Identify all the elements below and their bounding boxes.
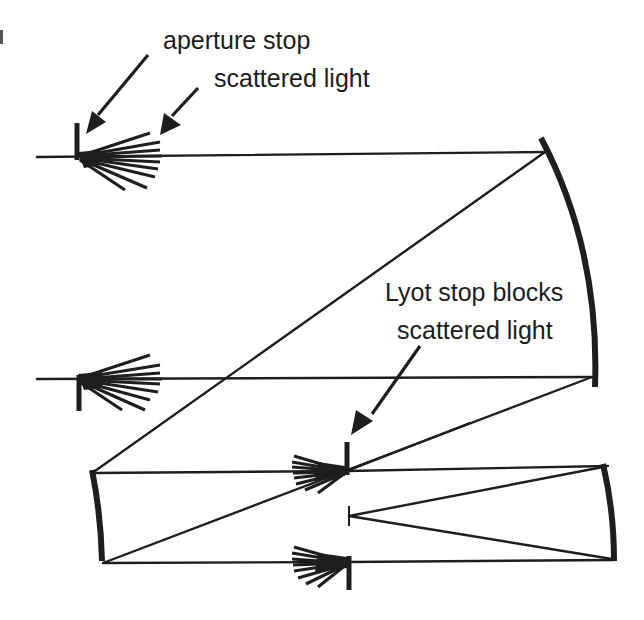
- upper-beam: [37, 123, 545, 190]
- lyot-stop-label-line2: scattered light: [397, 318, 553, 343]
- lyot-stop-lower-group: [292, 547, 614, 590]
- tertiary-mirror: [603, 464, 614, 561]
- scattered-light-label: scattered light: [214, 66, 370, 91]
- lower-beam: [37, 355, 592, 411]
- lyot-to-tertiary-upper: [347, 466, 608, 471]
- scatter-fan-upper: [78, 133, 162, 190]
- aperture-stop-arrow: [86, 55, 148, 134]
- diagram-canvas: [0, 0, 644, 620]
- lyot-stop-arrow: [351, 346, 420, 435]
- focal-ray-upper: [349, 467, 603, 516]
- diagonal-ray-upper: [95, 152, 545, 471]
- edge-mark: [0, 30, 3, 44]
- lyot-stop-label-line1: Lyot stop blocks: [385, 280, 563, 305]
- primary-mirror: [541, 138, 595, 387]
- secondary-mirror: [92, 470, 102, 561]
- lyot-to-tertiary-lower: [349, 560, 614, 562]
- scattered-light-arrow: [160, 88, 198, 135]
- scatter-fan-lower: [78, 355, 162, 410]
- lyot-oblique-ray: [347, 423, 470, 471]
- lyot-coronagraph-diagram: aperture stop scattered light Lyot stop …: [0, 0, 644, 620]
- aperture-stop-label: aperture stop: [163, 28, 310, 53]
- scatter-fan-lyot-lower: [292, 547, 347, 587]
- focal-ray-lower: [349, 516, 612, 559]
- lyot-stop-upper-group: [292, 423, 608, 493]
